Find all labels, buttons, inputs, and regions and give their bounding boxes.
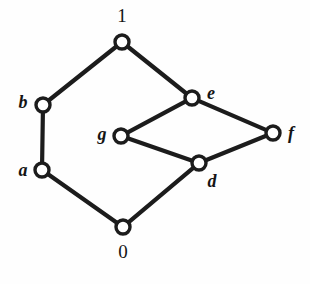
edge-0-a bbox=[45, 172, 119, 224]
edge-b-1 bbox=[46, 44, 119, 102]
node-label-d: d bbox=[208, 172, 217, 190]
node-0[interactable] bbox=[116, 220, 130, 234]
node-d[interactable] bbox=[192, 156, 206, 170]
diagram-canvas bbox=[0, 0, 310, 284]
edge-d-f bbox=[203, 135, 270, 162]
node-label-f: f bbox=[288, 124, 294, 142]
node-label-0: 0 bbox=[118, 242, 128, 261]
node-f[interactable] bbox=[266, 126, 280, 140]
edges-group bbox=[42, 44, 269, 224]
node-label-b: b bbox=[19, 93, 28, 111]
node-b[interactable] bbox=[36, 98, 50, 112]
node-a[interactable] bbox=[35, 163, 49, 177]
edge-g-e bbox=[125, 100, 189, 134]
node-e[interactable] bbox=[185, 91, 199, 105]
edge-e-1 bbox=[125, 44, 189, 95]
edge-g-d bbox=[125, 137, 195, 161]
node-label-a: a bbox=[19, 161, 28, 179]
edge-a-b bbox=[42, 109, 43, 166]
edge-0-d bbox=[126, 166, 196, 225]
node-label-e: e bbox=[207, 84, 215, 102]
node-label-g: g bbox=[98, 125, 107, 143]
node-1[interactable] bbox=[115, 35, 129, 49]
edge-e-f bbox=[196, 100, 270, 132]
nodes-group bbox=[35, 35, 280, 234]
node-g[interactable] bbox=[114, 129, 128, 143]
hasse-diagram-figure: 1begfad0 bbox=[0, 0, 310, 284]
node-label-1: 1 bbox=[117, 6, 127, 25]
